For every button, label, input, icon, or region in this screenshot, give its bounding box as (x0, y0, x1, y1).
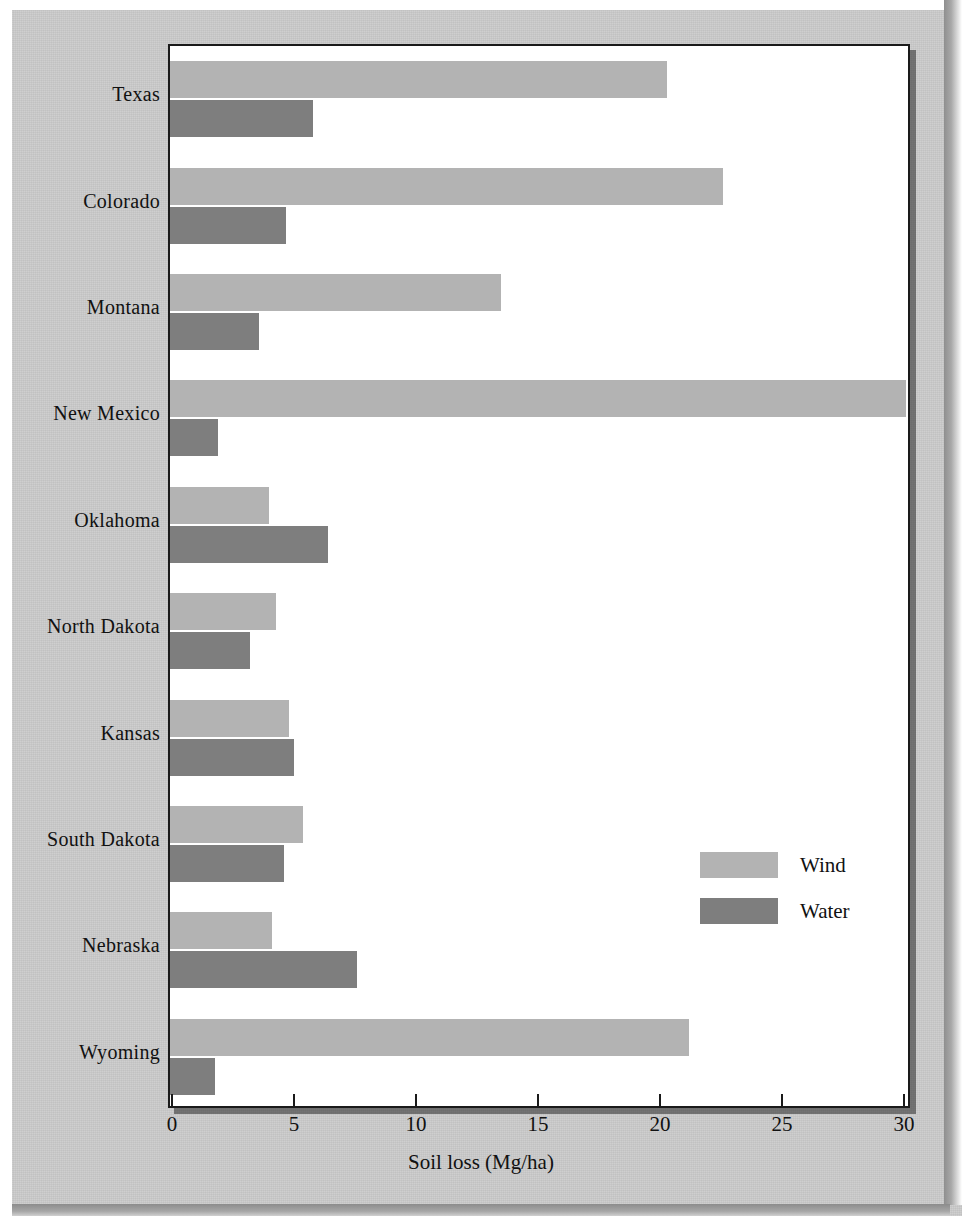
scan-border-bottom (0, 1216, 962, 1228)
bar-nebraska-wind (170, 912, 272, 949)
x-tick-20 (659, 1094, 661, 1107)
x-tick-0 (171, 1094, 173, 1107)
x-tick-label-20: 20 (650, 1112, 671, 1137)
bar-colorado-water (170, 207, 286, 244)
legend-swatch-wind-icon (700, 852, 778, 878)
x-tick-5 (293, 1094, 295, 1107)
legend-label-wind: Wind (800, 853, 846, 878)
x-tick-25 (781, 1094, 783, 1107)
plot-area (170, 46, 908, 1106)
bar-nebraska-water (170, 951, 357, 988)
x-tick-30 (903, 1094, 905, 1107)
bar-kansas-water (170, 739, 294, 776)
category-label-kansas: Kansas (0, 722, 160, 745)
chart-legend: Wind Water (700, 848, 850, 940)
bar-oklahoma-wind (170, 487, 269, 524)
x-tick-label-25: 25 (772, 1112, 793, 1137)
x-tick-label-5: 5 (289, 1112, 300, 1137)
scan-border-bottom-shadow (12, 1204, 950, 1216)
legend-item-water: Water (700, 894, 850, 928)
x-tick-10 (415, 1094, 417, 1107)
legend-label-water: Water (800, 899, 850, 924)
legend-swatch-water-icon (700, 898, 778, 924)
x-tick-label-30: 30 (894, 1112, 915, 1137)
bar-south-dakota-water (170, 845, 284, 882)
bar-texas-wind (170, 61, 667, 98)
category-label-north-dakota: North Dakota (0, 615, 160, 638)
bar-north-dakota-water (170, 632, 250, 669)
figure-page: TexasColoradoMontanaNew MexicoOklahomaNo… (0, 0, 962, 1228)
category-label-nebraska: Nebraska (0, 934, 160, 957)
scan-border-right (944, 0, 962, 1205)
bar-oklahoma-water (170, 526, 328, 563)
x-tick-15 (537, 1094, 539, 1107)
category-label-colorado: Colorado (0, 190, 160, 213)
category-label-south-dakota: South Dakota (0, 828, 160, 851)
bar-new-mexico-water (170, 419, 218, 456)
category-axis-labels: TexasColoradoMontanaNew MexicoOklahomaNo… (0, 44, 160, 1108)
x-axis-title: Soil loss (Mg/ha) (0, 1150, 962, 1175)
bar-wyoming-water (170, 1058, 215, 1095)
x-tick-label-15: 15 (528, 1112, 549, 1137)
bar-north-dakota-wind (170, 593, 276, 630)
legend-item-wind: Wind (700, 848, 850, 882)
bar-kansas-wind (170, 700, 289, 737)
bar-new-mexico-wind (170, 380, 906, 417)
plot-frame (168, 44, 910, 1108)
category-label-montana: Montana (0, 296, 160, 319)
bar-montana-wind (170, 274, 501, 311)
category-label-texas: Texas (0, 83, 160, 106)
bar-wyoming-wind (170, 1019, 689, 1056)
bar-montana-water (170, 313, 259, 350)
bar-colorado-wind (170, 168, 723, 205)
category-label-wyoming: Wyoming (0, 1041, 160, 1064)
x-tick-label-0: 0 (167, 1112, 178, 1137)
scan-border-top (0, 0, 962, 10)
x-tick-label-10: 10 (406, 1112, 427, 1137)
bar-south-dakota-wind (170, 806, 303, 843)
category-label-oklahoma: Oklahoma (0, 509, 160, 532)
bar-texas-water (170, 100, 313, 137)
category-label-new-mexico: New Mexico (0, 402, 160, 425)
